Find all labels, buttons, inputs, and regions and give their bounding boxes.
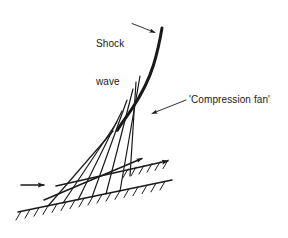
shock-wave-leader-line <box>132 24 155 33</box>
shock-wave-label: Shock wave <box>96 13 124 113</box>
fan-line-2 <box>63 122 117 203</box>
shock-wave-label-line2: wave <box>96 76 124 89</box>
compression-fan-leader-line <box>152 100 186 114</box>
compression-fan-label: 'Compression fan' <box>189 94 270 107</box>
compression-fan-lines <box>48 76 140 206</box>
lower-wall-hatching <box>16 181 165 220</box>
compression-fan-diagram: Shock wave 'Compression fan' <box>0 0 288 238</box>
shock-wave-label-line1: Shock <box>96 38 124 51</box>
diagram-canvas <box>0 0 288 238</box>
